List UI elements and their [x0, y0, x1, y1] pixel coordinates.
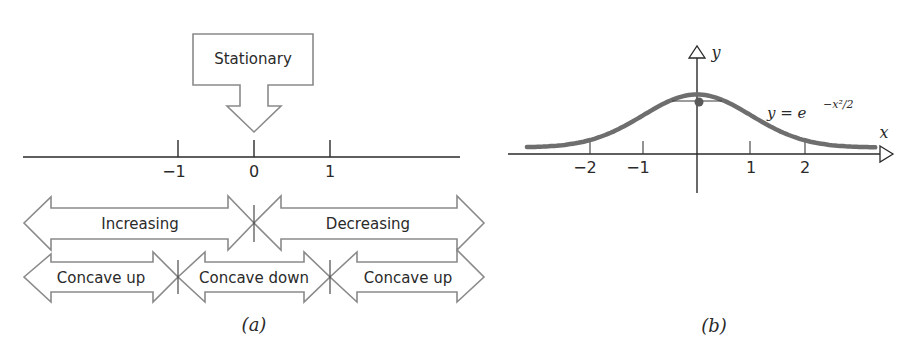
concave-up-left-label: Concave up [57, 269, 146, 287]
monotonic-row: Increasing Decreasing [24, 196, 484, 250]
x-tick-label-minus-1: −1 [626, 158, 650, 177]
stationary-callout: Stationary [193, 34, 313, 132]
caption-b: (b) [701, 315, 727, 336]
x-axis: x −2 −1 1 2 [508, 123, 893, 177]
x-tick-label-1: 1 [746, 158, 756, 177]
caption-a: (a) [242, 314, 267, 335]
y-axis-arrowhead-icon [689, 46, 705, 58]
equation-base: y = e [766, 104, 807, 122]
increasing-label: Increasing [101, 215, 178, 233]
stationary-arrow-shape [193, 34, 313, 132]
tick-label-1: 1 [325, 162, 335, 181]
panel-a: Stationary −1 0 1 Increasing Decreasing … [23, 34, 484, 335]
concave-down-label: Concave down [199, 269, 309, 287]
x-axis-label: x [879, 123, 888, 142]
y-axis: y [689, 43, 721, 193]
panel-b: x −2 −1 1 2 y y = e −x²/2 (b) [508, 43, 893, 336]
x-axis-arrowhead-icon [880, 146, 893, 162]
equation-label: y = e −x²/2 [766, 98, 854, 122]
equation-exponent: −x²/2 [823, 98, 854, 111]
y-axis-label: y [710, 43, 721, 62]
stationary-label: Stationary [214, 50, 292, 68]
maximum-point [695, 98, 704, 107]
concavity-row: Concave up Concave down Concave up [24, 250, 484, 302]
figure-canvas: Stationary −1 0 1 Increasing Decreasing … [0, 0, 907, 362]
x-tick-label-2: 2 [800, 158, 810, 177]
tick-label-minus-1: −1 [162, 162, 186, 181]
tick-label-0: 0 [249, 162, 259, 181]
concave-up-right-label: Concave up [364, 269, 453, 287]
x-tick-label-minus-2: −2 [573, 158, 597, 177]
decreasing-label: Decreasing [326, 215, 410, 233]
number-line: −1 0 1 [23, 140, 460, 181]
